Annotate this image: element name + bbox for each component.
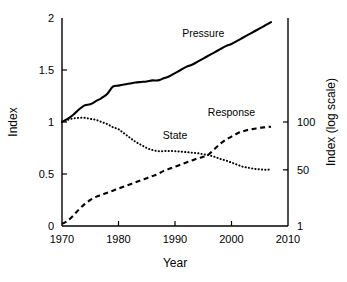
y-tick-label-right: 1 — [297, 220, 303, 232]
y-axis-title-left: Index — [6, 107, 20, 136]
series-line-state — [62, 118, 271, 170]
curves-group — [62, 22, 271, 224]
y-tick-label-left: 2 — [48, 12, 54, 24]
x-tick-label: 1980 — [106, 233, 130, 245]
series-label-state: State — [163, 129, 188, 141]
chart-canvas: 00.511.5219701980199020002010150100YearI… — [0, 0, 347, 282]
y-axis-title-right: Index (log scale) — [324, 78, 338, 166]
x-tick-label: 1990 — [163, 233, 187, 245]
y-tick-label-left: 0 — [48, 220, 54, 232]
x-tick-label: 2000 — [219, 233, 243, 245]
chart-figure: 00.511.5219701980199020002010150100YearI… — [0, 0, 347, 282]
series-label-pressure: Pressure — [182, 27, 224, 39]
y-tick-label-left: 1.5 — [39, 64, 54, 76]
x-axis-title: Year — [163, 256, 187, 270]
axes-group — [62, 18, 288, 226]
x-tick-label: 2010 — [276, 233, 300, 245]
x-tick-label: 1970 — [50, 233, 74, 245]
series-line-response — [62, 127, 271, 224]
y-tick-label-left: 1 — [48, 116, 54, 128]
series-label-response: Response — [208, 106, 255, 118]
y-tick-label-right: 50 — [297, 164, 309, 176]
y-tick-label-left: 0.5 — [39, 168, 54, 180]
y-tick-label-right: 100 — [297, 116, 315, 128]
